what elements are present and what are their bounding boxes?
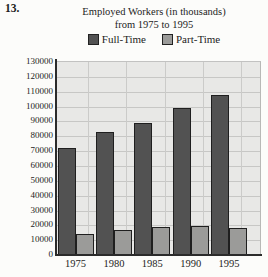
legend: Full-Time Part-Time — [40, 33, 268, 45]
y-axis-labels: 0100002000030000400005000060000700008000… — [18, 61, 53, 254]
y-tick-label: 90000 — [31, 115, 54, 125]
bar-full-time-1985 — [134, 123, 152, 255]
part-time-swatch-icon — [162, 34, 173, 45]
chart-title-line1: Employed Workers (in thousands) — [40, 5, 268, 18]
y-tick-label: 10000 — [31, 234, 54, 244]
bar-full-time-1980 — [96, 132, 114, 255]
y-tick-label: 120000 — [26, 71, 53, 81]
page: 13. Employed Workers (in thousands) from… — [0, 0, 268, 277]
bar-part-time-1995 — [229, 228, 247, 255]
x-axis-labels: 19751980198519901995 — [57, 258, 260, 272]
y-tick-label: 110000 — [26, 86, 53, 96]
bar-full-time-1995 — [211, 95, 229, 255]
y-tick-label: 80000 — [31, 130, 54, 140]
bar-full-time-1975 — [58, 148, 76, 255]
x-axis-line — [55, 254, 262, 256]
y-tick-label: 50000 — [31, 175, 54, 185]
legend-label-full-time: Full-Time — [102, 33, 146, 45]
legend-label-part-time: Part-Time — [176, 33, 220, 45]
chart-title: Employed Workers (in thousands) from 197… — [40, 5, 268, 31]
y-tick-label: 70000 — [31, 145, 54, 155]
bar-part-time-1980 — [114, 230, 132, 255]
y-tick-label: 30000 — [31, 205, 54, 215]
bar-part-time-1990 — [191, 226, 209, 255]
x-tick-label: 1985 — [132, 258, 172, 269]
bar-full-time-1990 — [173, 108, 191, 255]
x-tick-label: 1980 — [94, 258, 134, 269]
bar-part-time-1975 — [76, 234, 94, 255]
x-tick-label: 1995 — [209, 258, 249, 269]
x-tick-label: 1990 — [171, 258, 211, 269]
problem-number: 13. — [5, 2, 19, 14]
full-time-swatch-icon — [88, 34, 99, 45]
y-tick-label: 0 — [49, 249, 54, 259]
y-tick-label: 20000 — [31, 219, 54, 229]
chart-title-line2: from 1975 to 1995 — [40, 18, 268, 31]
gridline-vertical — [241, 62, 242, 255]
y-tick-label: 60000 — [31, 160, 54, 170]
gridline-vertical — [126, 62, 127, 255]
y-tick-label: 40000 — [31, 190, 54, 200]
y-tick-label: 130000 — [26, 56, 53, 66]
bar-part-time-1985 — [152, 227, 170, 255]
y-tick-label: 100000 — [26, 101, 53, 111]
legend-item-full-time: Full-Time — [88, 33, 146, 45]
legend-item-part-time: Part-Time — [162, 33, 220, 45]
y-axis-line — [55, 59, 57, 256]
x-tick-label: 1975 — [56, 258, 96, 269]
gridline-vertical — [88, 62, 89, 255]
plot-area — [57, 61, 261, 255]
